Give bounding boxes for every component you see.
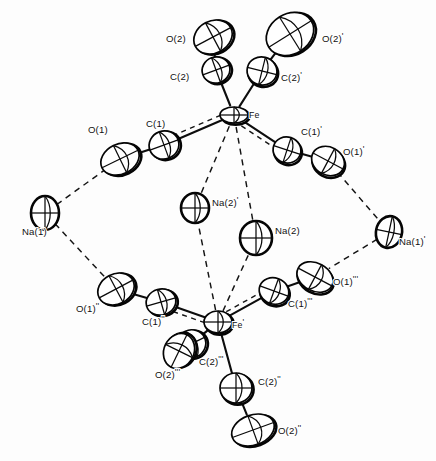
- atom-ellipsoid-Na1: [31, 196, 59, 230]
- atom-label-Na1p: Na(1)': [399, 234, 426, 247]
- atom-label-Fep: Fe': [232, 317, 245, 330]
- ortep-figure-container: O(2)O(2)'C(2)C(2)'FeC(1)O(1)C(1)'O(1)'Na…: [0, 0, 436, 461]
- atom-label-C2ppp: C(2)''': [199, 354, 224, 367]
- atom-label-C1p: C(1)': [301, 124, 322, 137]
- atom-label-C2: C(2): [170, 71, 189, 82]
- prime-mark-C1pp: '': [161, 314, 165, 324]
- prime-mark-C2p: ': [300, 70, 302, 80]
- prime-mark-O1ppp: ''': [353, 274, 359, 284]
- atom-label-Na2: Na(2): [275, 225, 300, 236]
- atom-ellipsoid-Na2p: [181, 193, 209, 223]
- atom-label-C1pp: C(1)'': [142, 314, 165, 327]
- atom-ellipsoids-layer: [31, 3, 405, 453]
- atom-label-O2p: O(2)': [322, 31, 344, 44]
- contact-Fep-Na2p: [198, 221, 216, 310]
- atom-ellipsoid-Fep: [204, 311, 234, 335]
- atom-label-Fe: Fe: [249, 110, 260, 120]
- atom-ellipsoid-O1: [95, 136, 146, 183]
- atom-ellipsoid-O1pp: [92, 266, 142, 312]
- bond-Fe-C1: [174, 119, 225, 141]
- prime-mark-O1p: ': [363, 144, 365, 154]
- bond-Fe-C1p: [243, 121, 279, 145]
- prime-mark-C1p: ': [320, 124, 322, 134]
- atom-ellipsoid-O2: [188, 13, 241, 62]
- atom-label-C1: C(1): [146, 118, 165, 129]
- atom-label-O1pp: O(1)'': [76, 301, 100, 314]
- atom-ellipsoid-Fe: [220, 107, 250, 125]
- contact-Fe-Na2: [236, 127, 253, 224]
- atom-label-O2ppp: O(2)''': [155, 367, 180, 380]
- prime-mark-O2pp: '': [298, 423, 302, 433]
- prime-mark-Fep: ': [243, 317, 245, 327]
- atom-ellipsoid-O2pp: [227, 408, 281, 453]
- prime-mark-O2p: ': [342, 31, 344, 41]
- prime-mark-O1pp: '': [96, 301, 100, 311]
- contact-Fep-C1pp-edge: [172, 311, 205, 323]
- atom-label-Na2p: Na(2)': [212, 195, 239, 208]
- prime-mark-Na2p: ': [237, 195, 239, 205]
- atom-label-O2pp: O(2)'': [278, 423, 302, 436]
- atom-label-O1ppp: O(1)''': [333, 274, 358, 287]
- contact-Na1p-O1ppp: [329, 239, 377, 268]
- prime-mark-C1ppp: ''': [307, 296, 313, 306]
- atom-ellipsoid-O2p: [258, 3, 324, 66]
- atom-ellipsoid-C2: [198, 52, 235, 88]
- atom-ellipsoid-C1p: [269, 133, 306, 168]
- prime-mark-C2ppp: ''': [218, 354, 224, 364]
- atom-ellipsoid-Na2: [240, 221, 272, 255]
- prime-mark-C2pp: '': [277, 374, 281, 384]
- ortep-structure-svg: O(2)O(2)'C(2)C(2)'FeC(1)O(1)C(1)'O(1)'Na…: [0, 0, 436, 461]
- prime-mark-O2ppp: ''': [175, 367, 181, 377]
- atom-label-C2pp: C(2)'': [258, 374, 281, 387]
- atom-label-O2: O(2): [166, 33, 186, 44]
- contact-Fep-Na2: [223, 251, 250, 311]
- prime-mark-Na1p: ': [424, 234, 426, 244]
- atom-label-C2p: C(2)': [281, 70, 302, 83]
- contact-O1p-Na1p: [338, 172, 381, 221]
- atom-ellipsoid-C1: [145, 126, 185, 165]
- contact-Fe-C1-edge: [174, 115, 221, 135]
- atom-label-O1p: O(1)': [343, 144, 365, 157]
- contact-Fe-C1p-edge: [241, 126, 274, 147]
- atom-label-C1ppp: C(1)''': [288, 296, 313, 309]
- bond-Fep-C1ppp: [227, 296, 265, 317]
- atom-ellipsoid-C2p: [244, 54, 282, 90]
- atom-label-Na1: Na(1): [22, 226, 47, 237]
- contact-O1-Na1: [57, 169, 106, 205]
- contact-Fe-Na2p: [200, 126, 229, 196]
- contact-Na1-O1pp: [55, 224, 105, 278]
- atom-ellipsoid-C2pp: [220, 373, 254, 405]
- atom-label-O1: O(1): [88, 124, 108, 135]
